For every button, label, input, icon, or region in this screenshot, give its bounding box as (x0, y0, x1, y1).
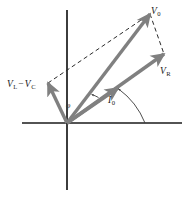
label-i0-subscript: 0 (112, 99, 116, 106)
vector-i0 (67, 88, 118, 123)
phasor-diagram-figure: V0 VR VL−VC I0 φ (0, 0, 190, 203)
vector-v0 (67, 14, 150, 123)
angle-arc-i0 (119, 89, 146, 123)
label-i0-symbol: I (108, 95, 111, 105)
label-vr: VR (160, 67, 171, 77)
label-vr-subscript: R (166, 70, 171, 77)
dashed-line-v0-to-vr (150, 14, 164, 54)
phasor-diagram-canvas (0, 0, 190, 203)
vector-vl-minus-vc (48, 83, 67, 123)
label-vl-minus-vc: VL−VC (7, 80, 35, 90)
label-minus-operator: − (17, 79, 25, 89)
dashed-line-vlvc-to-v0 (48, 14, 150, 83)
label-i0: I0 (108, 96, 115, 106)
label-v0: V0 (151, 7, 161, 17)
label-vl-subscript: L (13, 83, 17, 90)
angle-arc-phi (92, 95, 99, 98)
label-vc-subscript: C (31, 83, 36, 90)
label-phi: φ (66, 101, 70, 110)
angle-arc-group (92, 89, 145, 123)
label-vc-symbol: V (25, 79, 31, 89)
label-v0-subscript: 0 (157, 10, 161, 17)
